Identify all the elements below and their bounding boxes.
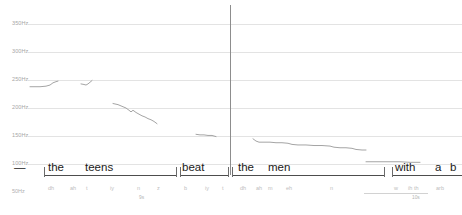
word-tier[interactable]: —theteensbeatthemenwithab bbox=[0, 160, 462, 182]
phoneme-label[interactable]: ih bbox=[408, 184, 412, 192]
playhead-cursor[interactable] bbox=[230, 5, 231, 175]
word-label[interactable]: beat bbox=[182, 160, 204, 174]
phoneme-label[interactable]: n bbox=[137, 184, 140, 192]
phoneme-label[interactable]: w bbox=[394, 184, 398, 192]
pitch-trace-f0-teens bbox=[113, 104, 157, 124]
phoneme-label[interactable]: m bbox=[268, 184, 273, 192]
word-label[interactable]: the bbox=[238, 160, 254, 174]
phoneme-label[interactable]: dh bbox=[240, 184, 246, 192]
phoneme-label[interactable]: b bbox=[184, 184, 187, 192]
word-boundary-marker[interactable] bbox=[232, 167, 233, 177]
word-label[interactable]: a bbox=[435, 160, 441, 174]
word-tier-rule bbox=[44, 175, 176, 176]
word-label[interactable]: teens bbox=[85, 160, 113, 174]
phoneme-label[interactable]: iy bbox=[205, 184, 209, 192]
phoneme-label[interactable]: dh bbox=[48, 184, 54, 192]
phoneme-label[interactable]: eh bbox=[286, 184, 292, 192]
phoneme-label[interactable]: n bbox=[330, 184, 333, 192]
word-boundary-marker[interactable] bbox=[384, 167, 385, 177]
pitch-annotation-view: 350Hz300Hz250Hz200Hz150Hz100Hz —theteens… bbox=[0, 0, 462, 215]
word-boundary-marker[interactable] bbox=[228, 167, 229, 177]
word-label[interactable]: — bbox=[14, 160, 26, 174]
time-tick-label-9s: 9s bbox=[139, 195, 144, 201]
pitch-trace-f0-the bbox=[30, 81, 58, 87]
word-tier-rule bbox=[232, 175, 384, 176]
phoneme-label[interactable]: t bbox=[86, 184, 88, 192]
word-boundary-marker[interactable] bbox=[176, 167, 177, 177]
pitch-trace-f0-beat bbox=[196, 134, 216, 136]
word-tier-rule bbox=[392, 175, 462, 176]
phoneme-label[interactable]: iy bbox=[110, 184, 114, 192]
word-boundary-marker[interactable] bbox=[44, 167, 45, 177]
word-label[interactable]: with bbox=[395, 160, 415, 174]
phoneme-label[interactable]: arb bbox=[436, 184, 444, 192]
phoneme-label[interactable]: ah bbox=[256, 184, 262, 192]
pitch-trace-f0-teens-onset bbox=[81, 81, 92, 85]
pitch-trace-f0-the-men bbox=[253, 139, 366, 150]
phoneme-tier[interactable]: dhahtiynzbiytdhahmehnwihtharb 9s10s bbox=[0, 184, 462, 202]
word-boundary-marker[interactable] bbox=[392, 167, 393, 177]
word-label[interactable]: men bbox=[268, 160, 290, 174]
phoneme-label[interactable]: z bbox=[157, 184, 160, 192]
word-label[interactable]: the bbox=[48, 160, 64, 174]
time-tick-label-10s: 10s bbox=[412, 195, 420, 201]
phoneme-label[interactable]: th bbox=[414, 184, 419, 192]
word-label[interactable]: b bbox=[450, 160, 456, 174]
pitch-contour-group bbox=[0, 0, 462, 215]
word-tier-rule bbox=[180, 175, 228, 176]
phoneme-label[interactable]: ah bbox=[70, 184, 76, 192]
phoneme-tier-rule bbox=[364, 193, 428, 194]
phoneme-label[interactable]: t bbox=[222, 184, 224, 192]
word-boundary-marker[interactable] bbox=[180, 167, 181, 177]
y-axis-floor-label: 50Hz bbox=[12, 188, 25, 195]
